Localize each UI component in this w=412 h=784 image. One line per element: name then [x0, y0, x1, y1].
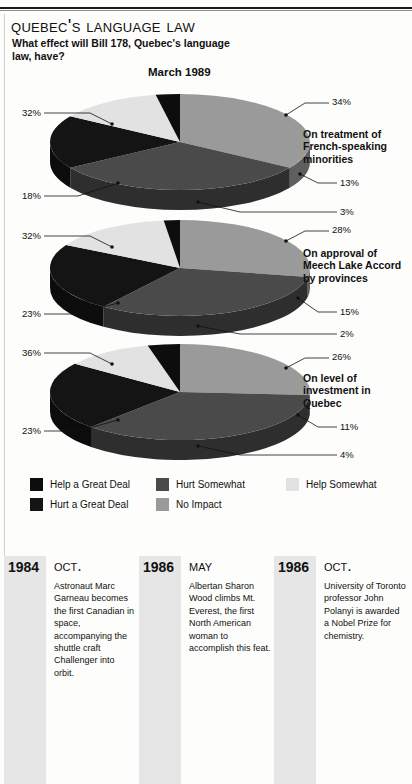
leader-line [198, 202, 337, 212]
leader-line [44, 236, 112, 247]
leader-line [298, 415, 337, 427]
leader-line [198, 326, 337, 334]
leader-dot [196, 200, 200, 204]
leader-dot [110, 122, 114, 126]
leader-line [286, 231, 329, 241]
leader-line [44, 420, 118, 431]
leader-line [44, 113, 112, 124]
leader-line [298, 298, 337, 312]
callout-leader-lines [0, 0, 412, 784]
leader-dot [196, 444, 200, 448]
leader-dot [284, 366, 288, 370]
leader-line [44, 353, 112, 364]
leader-dot [196, 324, 200, 328]
leader-dot [116, 301, 120, 305]
leader-dot [110, 245, 114, 249]
leader-line [44, 183, 118, 196]
leader-dot [284, 239, 288, 243]
leader-line [286, 358, 329, 368]
leader-line [286, 103, 329, 115]
leader-dot [296, 296, 300, 300]
leader-dot [116, 181, 120, 185]
leader-dot [110, 362, 114, 366]
infographic-page: Quebec's Language Law What effect will B… [0, 0, 412, 784]
leader-dot [284, 113, 288, 117]
leader-line [44, 303, 118, 314]
leader-dot [116, 418, 120, 422]
leader-dot [298, 172, 302, 176]
leader-dot [296, 413, 300, 417]
leader-line [300, 174, 337, 183]
leader-line [198, 446, 337, 455]
